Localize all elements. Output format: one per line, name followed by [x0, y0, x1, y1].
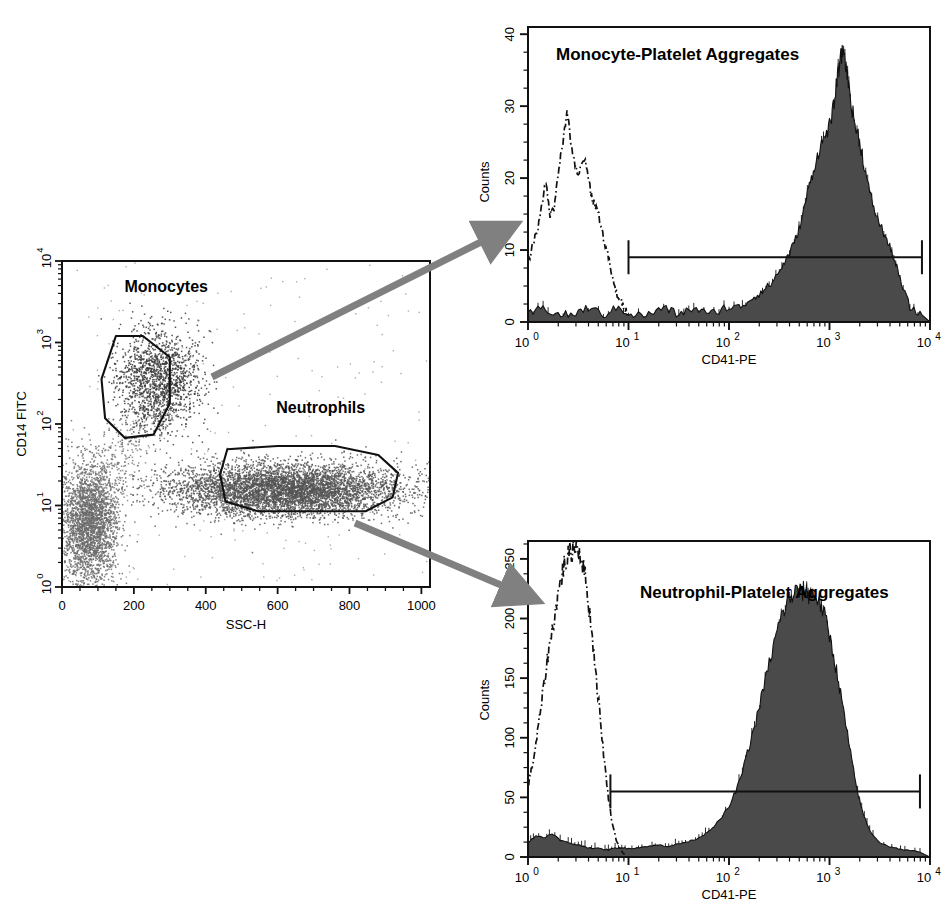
svg-text:30: 30 [502, 99, 517, 113]
gate-label-monocytes: Monocytes [124, 278, 208, 295]
svg-text:10: 10 [816, 870, 830, 885]
svg-text:10: 10 [39, 417, 54, 431]
svg-text:10: 10 [502, 243, 517, 257]
svg-text:50: 50 [502, 790, 517, 804]
svg-text:3: 3 [34, 329, 45, 334]
svg-text:0: 0 [34, 573, 45, 578]
svg-text:10: 10 [716, 335, 730, 350]
svg-text:10: 10 [515, 335, 529, 350]
svg-text:800: 800 [339, 598, 361, 613]
svg-text:10: 10 [816, 335, 830, 350]
svg-text:400: 400 [195, 598, 217, 613]
svg-text:0: 0 [502, 318, 517, 325]
hist-top-yaxis-label: Counts [477, 161, 492, 203]
figure-canvas: 02004006008001000100101102103104 Monocyt… [0, 0, 950, 913]
svg-text:10: 10 [515, 870, 529, 885]
svg-text:4: 4 [935, 331, 941, 342]
svg-text:40: 40 [502, 27, 517, 41]
svg-text:3: 3 [835, 331, 841, 342]
svg-text:2: 2 [734, 331, 740, 342]
svg-text:0: 0 [58, 598, 65, 613]
scatter-yaxis-label: CD14 FITC [14, 391, 29, 457]
neutrophil-histogram: 100101102103104050100150200250 Neutrophi… [477, 541, 941, 902]
scatter-plot-area [62, 261, 430, 587]
svg-text:10: 10 [615, 335, 629, 350]
svg-text:1: 1 [634, 866, 640, 877]
svg-text:10: 10 [39, 498, 54, 512]
svg-text:1: 1 [634, 331, 640, 342]
svg-text:1: 1 [34, 492, 45, 497]
svg-text:600: 600 [267, 598, 289, 613]
svg-text:10: 10 [39, 580, 54, 594]
svg-text:10: 10 [39, 254, 54, 268]
svg-text:200: 200 [123, 598, 145, 613]
svg-text:4: 4 [34, 247, 45, 252]
svg-text:150: 150 [502, 667, 517, 689]
scatter-xaxis-label: SSC-H [226, 617, 266, 632]
monocyte-histogram: 100101102103104010203040 Monocyte-Platel… [477, 27, 941, 367]
svg-text:4: 4 [935, 866, 941, 877]
hist-bottom-xaxis-label: CD41-PE [702, 887, 757, 902]
svg-text:0: 0 [502, 853, 517, 860]
svg-text:3: 3 [835, 866, 841, 877]
svg-text:10: 10 [615, 870, 629, 885]
svg-text:250: 250 [502, 548, 517, 570]
svg-text:0: 0 [533, 331, 539, 342]
svg-text:10: 10 [716, 870, 730, 885]
svg-text:200: 200 [502, 608, 517, 630]
svg-text:20: 20 [502, 171, 517, 185]
svg-text:100: 100 [502, 727, 517, 749]
svg-text:1000: 1000 [407, 598, 436, 613]
svg-text:2: 2 [34, 410, 45, 415]
svg-text:10: 10 [917, 870, 931, 885]
gate-label-neutrophils: Neutrophils [276, 399, 365, 416]
hist-bottom-yaxis-label: Counts [477, 679, 492, 721]
svg-text:2: 2 [734, 866, 740, 877]
hist-top-title: Monocyte-Platelet Aggregates [556, 45, 799, 64]
hist-top-xaxis-label: CD41-PE [702, 352, 757, 367]
svg-text:0: 0 [533, 866, 539, 877]
svg-text:10: 10 [39, 335, 54, 349]
flow-cytometry-figure: 02004006008001000100101102103104 Monocyt… [0, 0, 950, 913]
svg-text:10: 10 [917, 335, 931, 350]
hist-bottom-title: Neutrophil-Platelet Aggregates [640, 583, 889, 602]
scatter-gating-plot: 02004006008001000100101102103104 Monocyt… [14, 247, 436, 632]
